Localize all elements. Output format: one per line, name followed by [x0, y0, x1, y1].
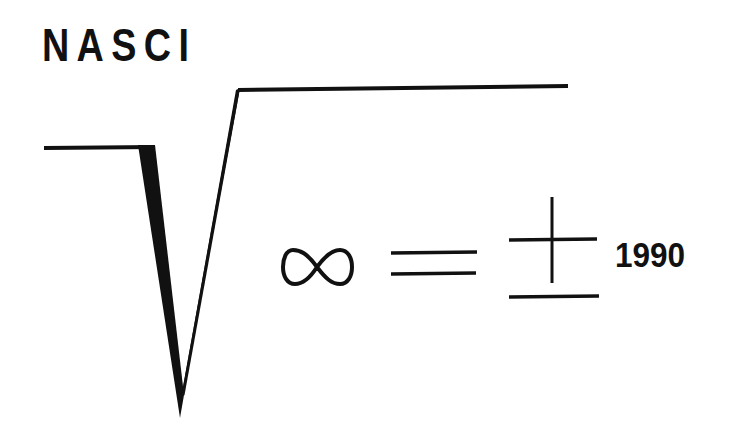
- organization-name: NASCI: [42, 22, 196, 68]
- year-label: 1990: [615, 237, 685, 272]
- plus-minus-icon: [509, 197, 599, 297]
- square-root-icon: [44, 86, 568, 418]
- infinity-icon: [283, 250, 352, 284]
- equals-icon: [391, 252, 477, 274]
